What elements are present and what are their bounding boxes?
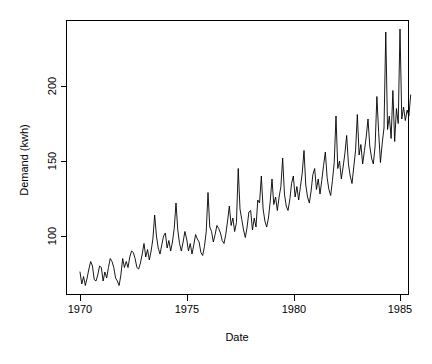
x-ticklabel-1985: 1985 [388, 303, 412, 315]
y-ticklabel-150: 150 [46, 152, 58, 170]
y-ticklabel-100: 100 [46, 227, 58, 245]
x-ticklabel-1975: 1975 [175, 303, 199, 315]
chart-background [0, 0, 432, 364]
x-axis-title: Date [225, 331, 248, 343]
x-ticklabel-1980: 1980 [282, 303, 306, 315]
y-axis-title: Demand (kwh) [18, 124, 30, 196]
y-ticklabel-200: 200 [46, 77, 58, 95]
line-chart-canvas: 200 150 100 Demand (kwh) 1970 1975 1980 … [0, 0, 432, 364]
chart-figure: 200 150 100 Demand (kwh) 1970 1975 1980 … [0, 0, 432, 364]
x-ticklabel-1970: 1970 [68, 303, 92, 315]
